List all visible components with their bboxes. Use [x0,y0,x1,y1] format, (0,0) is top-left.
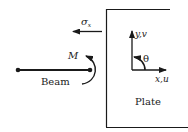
beam-end-node-left [16,68,21,73]
beam [16,68,93,73]
plate-boundary [106,9,188,128]
beam-plate-diagram: σx Beam M y,v x,u θ Plate [0,0,188,132]
beam-label: Beam [41,76,70,87]
x-axis-label: x,u [155,74,169,84]
y-axis-label: y,v [134,29,147,39]
moment-label: M [67,50,79,61]
beam-end-node-right [88,68,93,73]
angle-label: θ [143,53,149,64]
plate-label: Plate [135,96,161,107]
stress-label: σx [81,16,92,28]
